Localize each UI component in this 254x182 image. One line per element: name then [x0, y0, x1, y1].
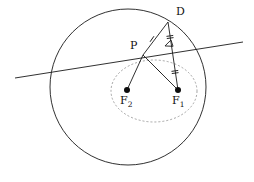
point-label-p: P	[130, 40, 137, 51]
focus-2-subscript: 2	[128, 100, 133, 109]
tick-pf1	[157, 69, 162, 74]
focus-1-subscript: 1	[180, 100, 185, 109]
focus-2-base: F	[120, 94, 128, 107]
geometry-figure: D P F2 F1	[0, 0, 254, 182]
point-label-f1: F1	[172, 95, 184, 106]
tick-df1-upper-stroke	[167, 38, 174, 39]
figure-canvas	[0, 0, 254, 182]
focus-2-dot	[124, 87, 130, 93]
focus-1-base: F	[172, 94, 180, 107]
tick-df1-lower-stroke	[172, 73, 179, 74]
segment-d-f1	[168, 22, 178, 90]
tick-df1-upper-stroke	[166, 35, 173, 36]
tangent-secant-line	[15, 42, 243, 78]
shapes-layer	[15, 9, 243, 165]
point-label-f2: F2	[120, 95, 132, 106]
ellipse-locus	[111, 60, 197, 122]
tick-pf1-stroke	[157, 69, 162, 74]
points-layer	[124, 87, 181, 93]
point-label-d: D	[176, 6, 185, 17]
tick-df1-lower-stroke	[171, 70, 178, 71]
segment-p-d	[143, 22, 168, 55]
focus-1-dot	[175, 87, 181, 93]
